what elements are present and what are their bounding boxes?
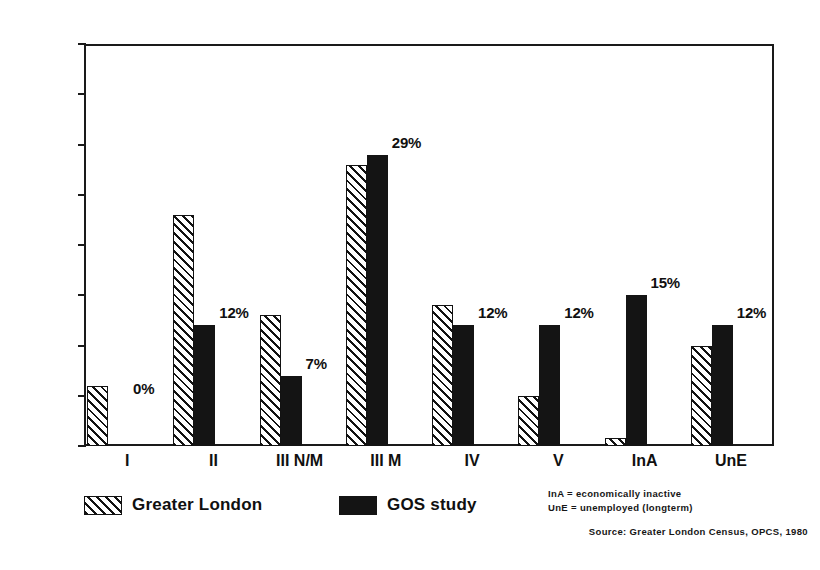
bar-value-label: 7% — [306, 355, 327, 372]
bar-greater-london — [173, 215, 194, 446]
legend-item: Greater London — [84, 495, 262, 515]
bar-group: 0% — [87, 44, 173, 446]
bars-layer: 0%12%7%29%12%12%15%12% — [84, 44, 774, 446]
bar-greater-london — [432, 305, 453, 446]
bar-greater-london — [518, 396, 539, 446]
bar-greater-london — [346, 165, 367, 446]
bar-value-label: 12% — [478, 304, 507, 321]
bar-gos-study — [539, 325, 560, 446]
x-axis-tick-label: II — [209, 452, 218, 470]
bar-gos-study — [367, 155, 388, 446]
footnote-une: UnE = unemployed (longterm) — [548, 501, 808, 515]
legend-swatch-solid-icon — [339, 496, 377, 515]
bar-group: 12% — [518, 44, 604, 446]
bar-value-label: 0% — [133, 380, 154, 397]
bar-group: 29% — [346, 44, 432, 446]
bar-value-label: 15% — [651, 274, 680, 291]
bar-gos-study — [194, 325, 215, 446]
footnote-block: InA = economically inactive UnE = unempl… — [548, 487, 808, 515]
legend-item: GOS study — [339, 495, 477, 515]
x-axis-tick-label: III M — [370, 452, 401, 470]
legend-label: Greater London — [132, 495, 262, 515]
bar-value-label: 29% — [392, 134, 421, 151]
bar-chart-figure: 0510152025303540 0%12%7%29%12%12%15%12% … — [0, 0, 820, 570]
bar-gos-study — [281, 376, 302, 446]
y-axis: 0510152025303540 — [0, 0, 84, 450]
x-axis-tick-label: InA — [632, 452, 658, 470]
x-axis-tick-label: III N/M — [276, 452, 323, 470]
footnote-ina: InA = economically inactive — [548, 487, 808, 501]
bar-gos-study — [712, 325, 733, 446]
bar-greater-london — [605, 438, 626, 446]
bar-greater-london — [260, 315, 281, 446]
x-axis: IIIIII N/MIII MIVVInAUnE — [84, 452, 774, 480]
bar-group: 12% — [432, 44, 518, 446]
bar-gos-study — [626, 295, 647, 446]
bar-group: 12% — [173, 44, 259, 446]
x-axis-tick-label: UnE — [715, 452, 747, 470]
bar-greater-london — [87, 386, 108, 446]
bar-greater-london — [691, 346, 712, 447]
legend-swatch-hatched-icon — [84, 496, 122, 515]
bar-group: 7% — [260, 44, 346, 446]
bar-value-label: 12% — [564, 304, 593, 321]
x-axis-tick-label: V — [553, 452, 564, 470]
bar-value-label: 12% — [219, 304, 248, 321]
bar-value-label: 12% — [737, 304, 766, 321]
bar-group: 15% — [605, 44, 691, 446]
source-note: Source: Greater London Census, OPCS, 198… — [589, 526, 808, 537]
bar-group: 12% — [691, 44, 777, 446]
legend-label: GOS study — [387, 495, 477, 515]
x-axis-tick-label: I — [125, 452, 129, 470]
bar-gos-study — [453, 325, 474, 446]
x-axis-tick-label: IV — [465, 452, 480, 470]
